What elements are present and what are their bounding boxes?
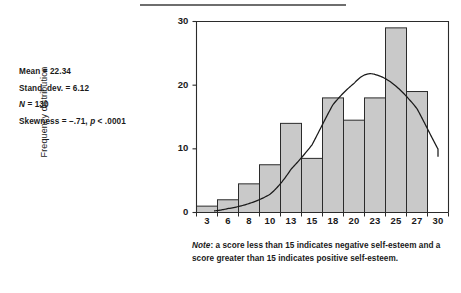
- note-text: : a score less than 15 indicates negativ…: [192, 241, 440, 263]
- histogram-bar: [197, 206, 218, 212]
- histogram-bar: [323, 98, 344, 213]
- y-axis-tick-label: 20: [167, 79, 189, 90]
- histogram-bar: [386, 28, 407, 213]
- x-axis-tick-label: 30: [426, 215, 450, 226]
- y-axis-tick-label: 30: [167, 15, 189, 26]
- histogram-bar: [344, 120, 365, 212]
- bars-group: [197, 28, 428, 213]
- histogram-bar: [302, 158, 323, 212]
- y-axis-tick-label: 10: [167, 142, 189, 153]
- histogram-bar: [365, 98, 386, 213]
- note-label: Note: [192, 241, 210, 250]
- histogram-bar: [260, 165, 281, 213]
- histogram-bar: [239, 184, 260, 213]
- y-axis-tick-label: 0: [167, 206, 189, 217]
- histogram-bar: [281, 123, 302, 212]
- figure-note: Note: a score less than 15 indicates neg…: [192, 240, 442, 265]
